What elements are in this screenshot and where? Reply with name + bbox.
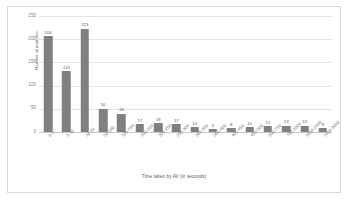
bar-value-label: 50	[101, 103, 106, 107]
bar-value-label: 39	[119, 108, 124, 112]
chart-page: Number of modules 050100150200250 206131…	[0, 0, 348, 200]
x-axis-tick-label: 0-5	[48, 131, 56, 139]
bar-slot: 6	[204, 16, 222, 132]
y-axis-tick-label: 250	[18, 14, 36, 19]
bar-value-label: 13	[302, 120, 307, 124]
bar-slot: 17	[167, 16, 185, 132]
bar-slot: 19	[149, 16, 167, 132]
bar-slot: 131	[57, 16, 75, 132]
bar[interactable]	[99, 109, 108, 132]
bar-slot: 39	[112, 16, 130, 132]
bar-value-label: 19	[156, 118, 161, 122]
bar-slot: 8	[222, 16, 240, 132]
y-axis-tick-label: 200	[18, 37, 36, 42]
bar-slot: 50	[94, 16, 112, 132]
bar-slot: 13	[277, 16, 295, 132]
bar-value-label: 17	[137, 119, 142, 123]
bar-slot: 8	[314, 16, 332, 132]
x-axis-tick-label: 5-10	[66, 129, 75, 138]
bar-slot: 10	[186, 16, 204, 132]
bar-value-label: 12	[266, 121, 271, 125]
bar-slot: 206	[39, 16, 57, 132]
bar-value-label: 8	[230, 123, 232, 127]
bar-value-label: 6	[212, 124, 214, 128]
y-axis-tick-label: 0	[18, 130, 36, 135]
bar-value-label: 223	[81, 23, 88, 27]
bar-value-label: 10	[192, 122, 197, 126]
bar-slot: 17	[131, 16, 149, 132]
bar[interactable]	[81, 29, 90, 132]
bar-value-label: 13	[284, 120, 289, 124]
y-axis-title: Number of modules	[34, 11, 39, 91]
y-axis-tick-label: 50	[18, 106, 36, 111]
bar[interactable]	[44, 36, 53, 132]
bar-value-label: 10	[247, 122, 252, 126]
bar-value-label: 17	[174, 119, 179, 123]
bar-chart: Number of modules 050100150200250 206131…	[14, 10, 334, 190]
plot-area: 20613122350391719171068101213138	[39, 16, 332, 132]
bar-slot: 13	[295, 16, 313, 132]
x-axis-title: Time taken by AV (in seconds)	[14, 174, 334, 179]
bar-slot: 12	[259, 16, 277, 132]
bar-slot: 223	[76, 16, 94, 132]
bar[interactable]	[62, 71, 71, 132]
bar-value-label: 131	[63, 66, 70, 70]
y-axis-tick-label: 150	[18, 60, 36, 65]
bar-slot: 10	[240, 16, 258, 132]
y-axis-tick-label: 100	[18, 83, 36, 88]
bar-value-label: 206	[45, 31, 52, 35]
